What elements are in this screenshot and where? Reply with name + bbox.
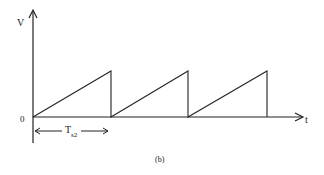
origin-label: 0	[20, 114, 25, 124]
period-label: Ts2	[65, 124, 78, 139]
y-axis-label: V	[17, 17, 25, 28]
sawtooth-diagram: V t 0 Ts2 (b)	[0, 0, 324, 175]
sawtooth-waveform	[33, 71, 267, 117]
x-axis-label: t	[305, 114, 308, 125]
period-label-sub: s2	[71, 131, 78, 139]
caption: (b)	[155, 155, 165, 164]
